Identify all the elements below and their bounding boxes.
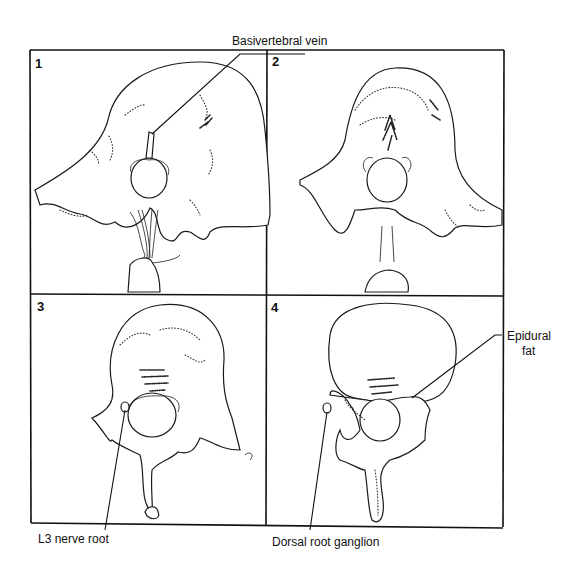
label-l3-nerve-root: L3 nerve root xyxy=(38,532,109,546)
panel-1-vertebra xyxy=(35,62,270,292)
panel-number-4: 4 xyxy=(271,301,278,315)
panel-4-vertebra xyxy=(323,303,456,521)
label-epidural-fat-line1: Epidural xyxy=(507,329,551,343)
panel-number-1: 1 xyxy=(35,57,42,71)
label-dorsal-root-ganglion: Dorsal root ganglion xyxy=(272,535,379,549)
vertebra-diagram: 1 2 3 4 Basivertebral vein Epidural fat … xyxy=(0,0,580,574)
panel-number-2: 2 xyxy=(272,55,279,69)
panel-2-vertebra xyxy=(300,68,502,292)
panel-3-vertebra xyxy=(92,304,252,518)
label-epidural-fat-line2: fat xyxy=(522,344,535,358)
label-basivertebral-vein: Basivertebral vein xyxy=(232,34,327,48)
diagram-drawing xyxy=(0,0,580,574)
panel-number-3: 3 xyxy=(37,300,44,314)
dorsal-root-ganglion-leader xyxy=(310,412,327,530)
